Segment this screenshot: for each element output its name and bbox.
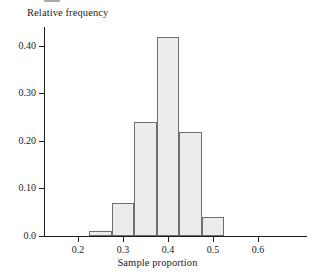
y-tick-0.30	[39, 93, 44, 94]
x-tick-0.3	[123, 237, 124, 242]
histogram-bar	[134, 122, 157, 236]
histogram-bar	[179, 132, 202, 237]
y-axis-line	[44, 27, 45, 237]
x-tick-0.6	[258, 237, 259, 242]
y-tick-label-0.10: 0.10	[2, 183, 36, 193]
x-tick-0.4	[168, 237, 169, 242]
x-tick-label-0.5: 0.5	[198, 244, 228, 255]
y-tick-label-0.30: 0.30	[2, 88, 36, 98]
histogram-bar	[89, 231, 112, 236]
y-tick-0.20	[39, 141, 44, 142]
y-axis-title: Relative frequency	[27, 7, 108, 18]
x-axis-line	[44, 236, 307, 237]
y-tick-label-0.0: 0.0	[2, 231, 36, 241]
histogram-bar	[112, 203, 135, 236]
y-tick-label-0.20: 0.20	[2, 136, 36, 146]
clipped-artifact	[44, 0, 60, 2]
x-tick-label-0.6: 0.6	[243, 244, 273, 255]
x-tick-label-0.2: 0.2	[63, 244, 93, 255]
histogram-figure: Relative frequency 0.40 0.30 0.20 0.10 0…	[0, 0, 315, 275]
x-tick-label-0.3: 0.3	[108, 244, 138, 255]
x-axis-title: Sample proportion	[0, 257, 315, 268]
x-tick-0.5	[213, 237, 214, 242]
y-tick-0.0	[39, 236, 44, 237]
y-tick-0.40	[39, 46, 44, 47]
histogram-bar	[202, 217, 225, 236]
x-tick-0.2	[78, 237, 79, 242]
y-tick-0.10	[39, 188, 44, 189]
x-tick-label-0.4: 0.4	[153, 244, 183, 255]
y-tick-label-0.40: 0.40	[2, 41, 36, 51]
histogram-bar	[157, 37, 180, 237]
